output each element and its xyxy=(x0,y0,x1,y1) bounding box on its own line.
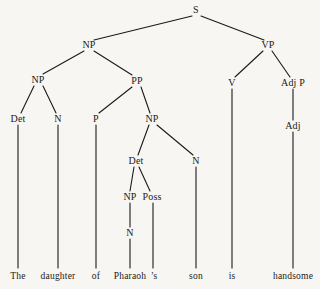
tree-branch-Det2-NP4 xyxy=(130,167,134,191)
tree-branch-Det2-Poss xyxy=(139,167,150,191)
tree-node-n3: N xyxy=(126,228,133,238)
tree-leaf-w2: daughter xyxy=(41,272,76,282)
tree-node-poss: Poss xyxy=(142,192,161,202)
tree-branch-VP-V xyxy=(235,51,263,77)
tree-branch-S-NP1 xyxy=(94,16,192,40)
tree-branch-NP2-Det1 xyxy=(21,86,34,113)
tree-leaf-w5: ’s xyxy=(151,272,158,282)
tree-node-det2: Det xyxy=(128,156,143,166)
tree-leaf-w7: is xyxy=(229,272,236,282)
tree-node-det1: Det xyxy=(10,114,25,124)
tree-leaf-w8: handsome xyxy=(273,272,313,282)
tree-node-n1: N xyxy=(54,114,61,124)
tree-node-np4: NP xyxy=(123,192,136,202)
tree-node-np3: NP xyxy=(145,114,158,124)
tree-branch-S-VP xyxy=(201,16,264,40)
tree-branch-PP-NP3 xyxy=(141,87,150,113)
tree-node-s: S xyxy=(193,5,199,15)
tree-leaf-w3: of xyxy=(92,272,100,282)
tree-leaf-w4: Pharaoh xyxy=(114,272,147,282)
tree-node-np1: NP xyxy=(82,40,95,50)
tree-branch-PP-P xyxy=(99,87,132,113)
tree-branch-NP1-PP xyxy=(94,51,132,75)
tree-node-adjp: Adj P xyxy=(281,78,305,88)
tree-node-n2: N xyxy=(192,156,199,166)
tree-branch-NP1-NP2 xyxy=(43,51,84,74)
tree-node-np2: NP xyxy=(31,75,44,85)
tree-leaf-w6: son xyxy=(189,272,203,282)
tree-node-pp: PP xyxy=(131,76,143,86)
tree-branch-NP2-N1 xyxy=(43,86,56,113)
tree-node-adj: Adj xyxy=(285,121,301,131)
tree-branch-NP3-N2 xyxy=(157,125,193,155)
tree-node-v: V xyxy=(228,78,235,88)
tree-branch-NP3-Det2 xyxy=(138,125,149,155)
tree-branch-VP-AdjP xyxy=(272,51,290,77)
syntax-tree-figure: SNPVPNPPPVAdj PDetNPNPAdjDetNNPPossN The… xyxy=(0,0,320,289)
tree-node-vp: VP xyxy=(261,40,274,50)
tree-leaf-w1: The xyxy=(10,272,25,282)
tree-node-p: P xyxy=(93,114,99,124)
